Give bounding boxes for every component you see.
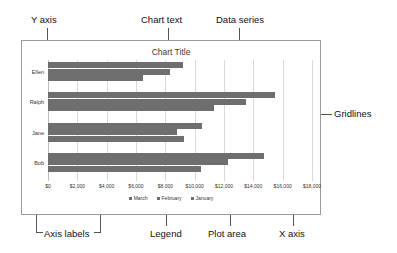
bar-february[interactable]	[48, 69, 170, 75]
legend-label: February	[162, 195, 182, 201]
x-axis-tick-label: $10,000	[186, 183, 204, 189]
callout-plot-area: Plot area	[208, 228, 246, 239]
x-axis-tick-label: $12,000	[215, 183, 233, 189]
leader-elbow-axis-labels-right	[94, 232, 101, 233]
bar-january[interactable]	[48, 105, 214, 111]
bar-january[interactable]	[48, 166, 201, 172]
callout-chart-text: Chart text	[141, 14, 182, 25]
callout-legend: Legend	[150, 228, 182, 239]
gridline	[312, 60, 313, 181]
bar-group: Ralph	[48, 92, 312, 118]
chart-title: Chart Title	[22, 47, 320, 57]
x-axis-tick-label: $8,000	[158, 183, 173, 189]
legend-label: March	[134, 195, 148, 201]
x-axis-tick-label: $18,000	[303, 183, 321, 189]
leader-elbow-axis-labels-left	[36, 232, 43, 233]
x-axis-tick-label: $2,000	[70, 183, 85, 189]
bar-march[interactable]	[48, 123, 202, 129]
y-axis-label: Jane	[32, 130, 44, 136]
bar-february[interactable]	[48, 159, 228, 165]
x-axis-tick-label: $0	[45, 183, 51, 189]
x-axis-tick-label: $14,000	[244, 183, 262, 189]
legend-item[interactable]: February	[157, 195, 182, 201]
callout-data-series: Data series	[216, 14, 264, 25]
legend-swatch-icon	[191, 197, 194, 200]
plot-area[interactable]: EllenRalphJaneBob	[48, 60, 312, 181]
legend-swatch-icon	[129, 197, 132, 200]
diagram-canvas: Y axis Chart text Data series Gridlines …	[0, 0, 397, 253]
x-axis-tick-label: $6,000	[128, 183, 143, 189]
bar-group: Bob	[48, 153, 312, 179]
bar-january[interactable]	[48, 75, 143, 81]
bar-march[interactable]	[48, 92, 275, 98]
callout-y-axis: Y axis	[31, 14, 57, 25]
bar-march[interactable]	[48, 62, 183, 68]
callout-gridlines: Gridlines	[334, 108, 372, 119]
bar-group: Jane	[48, 123, 312, 149]
legend-item[interactable]: March	[129, 195, 148, 201]
bar-group: Ellen	[48, 62, 312, 88]
legend[interactable]: MarchFebruaryJanuary	[22, 195, 320, 201]
x-axis: $0$2,000$4,000$6,000$8,000$10,000$12,000…	[48, 183, 312, 193]
callout-axis-labels: Axis labels	[44, 228, 89, 239]
y-axis-label: Bob	[34, 160, 44, 166]
callout-x-axis: X axis	[279, 228, 305, 239]
legend-label: January	[196, 195, 214, 201]
y-axis-label: Ellen	[32, 69, 44, 75]
chart-frame[interactable]: Chart Title EllenRalphJaneBob $0$2,000$4…	[21, 40, 321, 215]
legend-swatch-icon	[157, 197, 160, 200]
x-axis-tick-label: $16,000	[274, 183, 292, 189]
bar-february[interactable]	[48, 129, 177, 135]
legend-item[interactable]: January	[191, 195, 214, 201]
x-axis-tick-label: $4,000	[99, 183, 114, 189]
y-axis-label: Ralph	[30, 99, 44, 105]
bar-january[interactable]	[48, 136, 184, 142]
bar-february[interactable]	[48, 99, 246, 105]
bar-march[interactable]	[48, 153, 264, 159]
